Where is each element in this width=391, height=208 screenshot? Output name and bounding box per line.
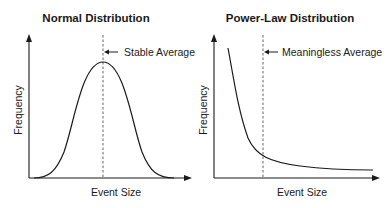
normal-distribution-chart: Normal Distribution Stable Average Frequ… bbox=[12, 12, 195, 198]
x-axis-label: Event Size bbox=[277, 186, 327, 198]
stable-average-label: Stable Average bbox=[124, 46, 195, 58]
x-axis-label: Event Size bbox=[91, 186, 141, 198]
y-axis-arrow-icon bbox=[26, 34, 32, 42]
x-axis-arrow-icon bbox=[372, 175, 380, 181]
power-law-chart-title: Power-Law Distribution bbox=[226, 12, 354, 24]
distribution-comparison-diagram: Normal Distribution Stable Average Frequ… bbox=[0, 0, 391, 208]
y-axis-arrow-icon bbox=[211, 34, 217, 42]
normal-chart-title: Normal Distribution bbox=[42, 12, 149, 24]
meaningless-average-label: Meaningless Average bbox=[282, 46, 382, 58]
bell-curve bbox=[34, 62, 174, 178]
x-axis-arrow-icon bbox=[184, 175, 192, 181]
annotation-arrow-icon bbox=[264, 50, 269, 55]
annotation-arrow-icon bbox=[104, 50, 109, 55]
y-axis-label: Frequency bbox=[197, 84, 209, 134]
y-axis-label: Frequency bbox=[12, 84, 24, 134]
long-tail-curve bbox=[228, 48, 373, 170]
power-law-distribution-chart: Power-Law Distribution Meaningless Avera… bbox=[197, 12, 382, 198]
